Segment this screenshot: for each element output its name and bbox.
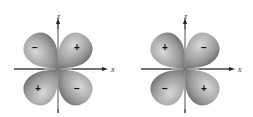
orbital-diagram-left: z x − + + − bbox=[14, 12, 115, 113]
orbital-figure: z x − + + − z x + − − + bbox=[0, 0, 253, 117]
sign-upper-left: + bbox=[162, 42, 168, 53]
sign-lower-left: − bbox=[162, 83, 168, 94]
sign-upper-right: − bbox=[201, 42, 207, 53]
z-axis-label: z bbox=[56, 12, 61, 21]
sign-upper-right: + bbox=[74, 42, 80, 53]
sign-lower-left: + bbox=[35, 83, 41, 94]
sign-upper-left: − bbox=[32, 42, 38, 53]
x-axis-label: x bbox=[110, 65, 115, 74]
sign-lower-right: − bbox=[74, 83, 80, 94]
orbital-diagram-right: z x + − − + bbox=[141, 12, 242, 113]
sign-lower-right: + bbox=[201, 83, 207, 94]
z-axis-label: z bbox=[183, 12, 188, 21]
x-axis-label: x bbox=[237, 65, 242, 74]
